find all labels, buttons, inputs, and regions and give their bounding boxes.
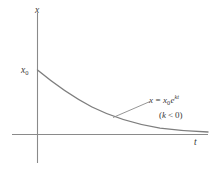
- condition-annotation: (k<0): [159, 110, 183, 120]
- horizontal-axis-label-wrap: t: [190, 133, 210, 153]
- y-intercept-label-subscript: 0: [25, 69, 28, 76]
- condition-variable: k: [162, 110, 167, 120]
- y-intercept-label: x0: [20, 65, 28, 76]
- equation-exponent: kt: [175, 93, 180, 100]
- annotation-leader-line: [113, 102, 150, 118]
- exponential-decay-figure: x t x0 x=x0ekt (k<0): [0, 0, 213, 178]
- condition-close-paren: ): [180, 110, 183, 120]
- condition-operator: <: [168, 110, 173, 120]
- equation-annotation-wrap: x=x0ekt: [148, 92, 210, 108]
- horizontal-axis-label: t: [194, 137, 197, 147]
- equation-equals: =: [156, 95, 161, 105]
- condition-annotation-wrap: (k<0): [158, 107, 208, 123]
- equation-lhs: x: [148, 95, 153, 105]
- vertical-axis-label: x: [34, 5, 40, 15]
- equation-annotation: x=x0ekt: [148, 93, 179, 106]
- graph-canvas: [0, 0, 213, 178]
- vertical-axis-label-wrap: x: [30, 0, 54, 20]
- y-intercept-label-wrap: x0: [20, 62, 40, 78]
